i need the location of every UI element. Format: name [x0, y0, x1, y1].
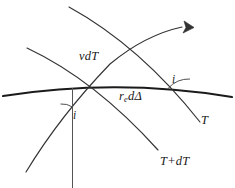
wavefront-tdt-label: T+dT	[160, 155, 189, 168]
wavefront-t-label: T	[201, 114, 208, 127]
diagram-canvas	[0, 0, 235, 188]
surface-segment-label: redΔ	[119, 90, 142, 104]
angle-label-right: i	[172, 74, 175, 86]
wavefront-t	[69, 7, 200, 122]
ray-direction-arrowhead	[183, 21, 194, 33]
incidence-angle-arc-lower	[61, 104, 73, 107]
angle-label-lower: i	[73, 110, 76, 122]
ray-segment-label: vdT	[79, 50, 98, 63]
curved-ray-with-arrow	[26, 27, 182, 172]
earth-surface-arc	[3, 87, 232, 97]
seismic-ray-diagram: vdT redΔ T T+dT i i	[0, 0, 235, 188]
surface-segment-remainder: dΔ	[128, 89, 142, 103]
